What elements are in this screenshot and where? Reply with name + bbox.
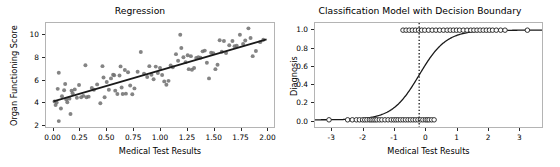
y-tick-mark: [311, 66, 314, 67]
x-tick-label: 1: [454, 133, 459, 142]
x-tick-mark: [425, 128, 426, 131]
x-tick-mark: [394, 128, 395, 131]
x-tick-label: -2: [359, 133, 366, 142]
x-tick-mark: [53, 128, 54, 131]
y-tick-label: 0.0: [282, 116, 308, 125]
x-tick-mark: [331, 128, 332, 131]
x-tick-label: 1.25: [179, 133, 195, 142]
y-tick-mark: [311, 102, 314, 103]
x-tick-label: 1.75: [232, 133, 248, 142]
y-tick-label: 0.8: [282, 43, 308, 52]
figure-canvas: Regression 0.000.250.500.751.001.251.501…: [0, 0, 560, 167]
x-tick-label: -3: [328, 133, 335, 142]
x-tick-label: 1.50: [206, 133, 222, 142]
x-tick-label: 0.75: [125, 133, 141, 142]
y-tick-mark: [42, 34, 45, 35]
x-tick-label: 0.50: [98, 133, 114, 142]
x-tick-mark: [187, 128, 188, 131]
y-tick-mark: [42, 80, 45, 81]
x-tick-mark: [214, 128, 215, 131]
y-tick-label: 0.2: [282, 98, 308, 107]
x-tick-mark: [241, 128, 242, 131]
x-tick-mark: [363, 128, 364, 131]
y-tick-mark: [311, 121, 314, 122]
y-tick-label: 1.0: [282, 25, 308, 34]
classification-plot-svg: [315, 23, 542, 127]
y-tick-mark: [42, 102, 45, 103]
y-tick-mark: [311, 84, 314, 85]
y-tick-mark: [311, 48, 314, 49]
regression-panel: Regression 0.000.250.500.751.001.251.501…: [0, 0, 280, 167]
x-tick-mark: [267, 128, 268, 131]
x-tick-label: 0: [423, 133, 428, 142]
x-tick-label: -1: [390, 133, 397, 142]
classification-chart-title: Classification Model with Decision Bound…: [280, 5, 560, 16]
regression-fit-line: [53, 39, 266, 101]
x-tick-mark: [519, 128, 520, 131]
x-tick-label: 0.25: [71, 133, 87, 142]
x-tick-mark: [457, 128, 458, 131]
x-tick-mark: [133, 128, 134, 131]
regression-chart-title: Regression: [0, 5, 280, 16]
x-tick-label: 2: [486, 133, 491, 142]
regression-plot-area: [45, 22, 275, 128]
regression-plot-svg: [46, 23, 274, 127]
x-tick-label: 1.00: [152, 133, 168, 142]
regression-y-axis-label: Organ Functioning Score: [9, 25, 19, 126]
x-tick-label: 0.00: [44, 133, 60, 142]
y-tick-mark: [311, 29, 314, 30]
classification-plot-area: [314, 22, 543, 128]
x-tick-mark: [106, 128, 107, 131]
x-tick-mark: [488, 128, 489, 131]
y-tick-mark: [42, 57, 45, 58]
x-tick-label: 2.00: [259, 133, 275, 142]
x-tick-label: 3: [517, 133, 522, 142]
classification-y-axis-label: Diagnosis: [289, 56, 299, 96]
y-tick-mark: [42, 125, 45, 126]
x-tick-mark: [160, 128, 161, 131]
logistic-sigmoid-curve: [315, 30, 542, 120]
regression-scatter-points: [53, 26, 266, 123]
classification-x-axis-label: Medical Test Results: [314, 146, 543, 156]
regression-x-axis-label: Medical Test Results: [45, 146, 275, 156]
x-tick-mark: [79, 128, 80, 131]
